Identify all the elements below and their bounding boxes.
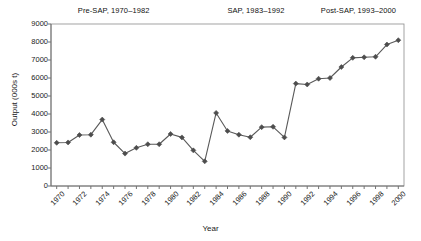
plot-frame: [51, 24, 404, 186]
data-point-marker: [236, 132, 241, 137]
plot-area: [0, 0, 421, 241]
data-point-marker: [362, 55, 367, 60]
data-point-marker: [293, 81, 298, 86]
series-line: [57, 40, 399, 161]
data-point-marker: [54, 140, 59, 145]
data-point-marker: [134, 145, 139, 150]
data-point-marker: [396, 38, 401, 43]
data-point-marker: [305, 82, 310, 87]
chart-figure: Pre-SAP, 1970–1982 SAP, 1983–1992 Post-S…: [0, 0, 421, 241]
data-point-marker: [145, 142, 150, 147]
data-point-marker: [316, 76, 321, 81]
